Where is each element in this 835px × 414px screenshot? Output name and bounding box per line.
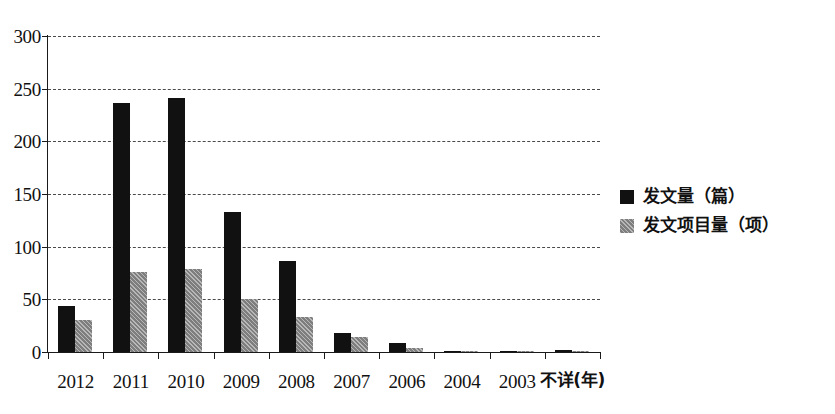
x-tick-2007 [379, 352, 380, 359]
bar-group [103, 36, 158, 352]
x-tick-2012 [103, 352, 104, 359]
y-tick-300 [42, 36, 48, 37]
legend-swatch-icon [620, 190, 634, 204]
x-axis-label-2012: 2012 [57, 372, 94, 391]
bar-group [48, 36, 103, 352]
legend-swatch-icon [620, 219, 634, 233]
bar-group [379, 36, 434, 352]
x-axis-label-2010: 2010 [168, 372, 205, 391]
x-axis-label-不详(年): 不详(年) [540, 372, 605, 389]
legend-item: 发文项目量（项） [620, 211, 779, 240]
x-tick-2011 [158, 352, 159, 359]
bar-group [490, 36, 545, 352]
bar-group [545, 36, 600, 352]
x-axis-label-2006: 2006 [388, 372, 425, 391]
x-axis-label-2009: 2009 [223, 372, 260, 391]
x-axis-label-2011: 2011 [113, 372, 149, 391]
bar [389, 343, 406, 352]
y-axis-label-300: 300 [13, 27, 41, 46]
bar [185, 269, 202, 352]
bar [296, 317, 313, 352]
chart-legend: 发文量（篇）发文项目量（项） [620, 182, 779, 240]
x-tick-不详(年) [600, 352, 601, 359]
y-tick-50 [42, 299, 48, 300]
bar [279, 261, 296, 352]
bar-chart-figure: 050100150200250300 201220112010200920082… [0, 0, 835, 414]
bar [241, 299, 258, 352]
legend-label: 发文量（篇） [643, 188, 745, 205]
bar-group [434, 36, 489, 352]
y-tick-100 [42, 247, 48, 248]
x-axis-label-2003: 2003 [499, 372, 536, 391]
bar-group [324, 36, 379, 352]
bar [334, 333, 351, 352]
plot-area [48, 36, 600, 352]
y-tick-150 [42, 194, 48, 195]
bar-group [269, 36, 324, 352]
bar-group [158, 36, 213, 352]
y-axis-label-200: 200 [13, 132, 41, 151]
x-tick-2003 [545, 352, 546, 359]
bar [351, 337, 368, 352]
x-tick-2006 [434, 352, 435, 359]
y-axis-label-150: 150 [13, 185, 41, 204]
legend-item: 发文量（篇） [620, 182, 779, 211]
x-tick-2004 [490, 352, 491, 359]
bar [224, 212, 241, 352]
y-axis-label-50: 50 [23, 290, 41, 309]
bar [75, 320, 92, 352]
bar-group [214, 36, 269, 352]
x-axis-label-2007: 2007 [333, 372, 370, 391]
x-tick-2009 [269, 352, 270, 359]
y-tick-200 [42, 141, 48, 142]
x-tick-2010 [214, 352, 215, 359]
x-tick-2008 [324, 352, 325, 359]
y-tick-250 [42, 89, 48, 90]
y-axis-label-0: 0 [32, 343, 41, 362]
x-axis-label-2004: 2004 [444, 372, 481, 391]
bar [113, 103, 130, 352]
y-axis-label-250: 250 [13, 79, 41, 98]
x-tick-start [48, 352, 49, 359]
x-axis: 201220112010200920082007200620042003不详(年… [48, 352, 600, 353]
bar [168, 98, 185, 352]
bar [58, 306, 75, 352]
y-axis-label-100: 100 [13, 237, 41, 256]
x-axis-label-2008: 2008 [278, 372, 315, 391]
legend-label: 发文项目量（项） [643, 217, 779, 234]
bar [130, 272, 147, 352]
y-axis: 050100150200250300 [47, 35, 48, 353]
